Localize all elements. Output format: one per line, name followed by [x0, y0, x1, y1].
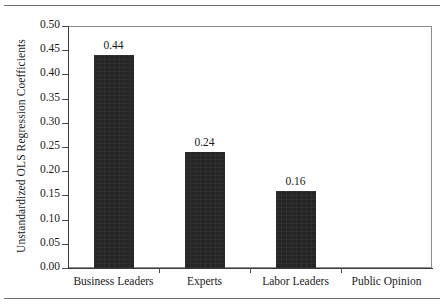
y-tick-mark	[62, 171, 68, 172]
x-category-label: Business Leaders	[68, 275, 159, 287]
bar	[94, 55, 134, 268]
y-tick-mark	[62, 220, 68, 221]
y-tick-label: 0.20	[40, 163, 60, 175]
y-tick-label: 0.05	[40, 236, 60, 248]
bar-value-label: 0.16	[266, 175, 326, 187]
y-tick-mark	[62, 123, 68, 124]
figure-container: Unstandardized OLS Regression Coefficien…	[0, 0, 444, 308]
x-category-label: Labor Leaders	[250, 275, 341, 287]
y-tick-mark	[62, 244, 68, 245]
y-tick-label: 0.25	[40, 139, 60, 151]
y-tick-mark	[62, 50, 68, 51]
y-tick-label: 0.35	[40, 91, 60, 103]
x-category-label: Experts	[159, 275, 250, 287]
y-tick-mark	[62, 74, 68, 75]
x-category-label: Public Opinion	[341, 275, 432, 287]
y-tick-label: 0.45	[40, 42, 60, 54]
top-horizontal-rule	[4, 5, 440, 6]
y-tick-label: 0.15	[40, 187, 60, 199]
y-axis-line	[68, 26, 69, 269]
x-tick-mark	[341, 268, 342, 273]
y-tick-mark	[62, 147, 68, 148]
y-tick-mark	[62, 26, 68, 27]
y-tick-label: 0.00	[40, 260, 60, 272]
bar-value-label: 0.44	[84, 39, 144, 51]
y-tick-mark	[62, 99, 68, 100]
bar	[185, 152, 225, 268]
y-tick-label: 0.50	[40, 18, 60, 30]
y-axis-title: Unstandardized OLS Regression Coefficien…	[15, 21, 27, 271]
y-tick-mark	[62, 195, 68, 196]
x-tick-mark	[159, 268, 160, 273]
y-tick-label: 0.40	[40, 66, 60, 78]
bar	[276, 191, 316, 268]
y-tick-label: 0.10	[40, 212, 60, 224]
bottom-horizontal-rule	[4, 298, 440, 299]
x-tick-mark	[250, 268, 251, 273]
bar-value-label: 0.24	[175, 136, 235, 148]
y-tick-mark	[62, 268, 68, 269]
y-tick-label: 0.30	[40, 115, 60, 127]
